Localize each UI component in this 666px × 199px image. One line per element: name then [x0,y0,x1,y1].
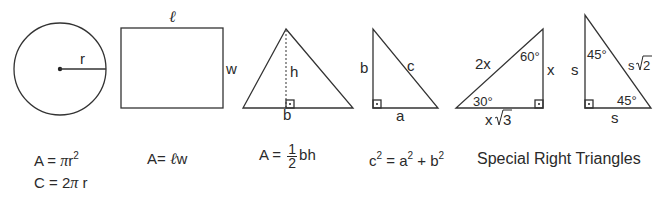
formula-rhs: bh [299,146,316,163]
formula-plus: + b [413,152,438,169]
rectangle-figure: ℓ w [121,8,237,108]
formula-eq: = a [382,152,407,169]
formula-var: r [78,174,87,191]
angle-45-bottom-label: 45° [617,93,637,108]
hypotenuse-2x-label: 2x [475,55,491,72]
triangle-figure: h b [243,29,353,123]
right-triangle-leg-b-label: b [360,59,368,76]
rectangle-length-label: ℓ [169,8,176,25]
triangle-height-label: h [290,63,298,80]
ell-symbol: ℓ [170,150,177,167]
angle-45-top-label: 45° [587,47,607,62]
geometry-figures: r ℓ w h b b c a 2x 60° x 30° x 3 [0,0,666,199]
hypotenuse-prefix: s [628,58,635,73]
rectangle-shape [121,28,223,108]
circle-area-formula: A = πr2 [34,150,79,170]
triangle-base-label: b [283,106,291,123]
triangle-30-60-90-shape [456,29,543,108]
right-angle-dot [376,103,378,105]
formula-lhs: A = [34,152,60,169]
right-triangle-shape [373,29,438,108]
right-angle-dot [289,103,291,105]
rectangle-area-formula: A= ℓw [147,150,187,168]
special-right-triangles-heading: Special Right Triangles [477,150,641,168]
formula-lhs: A= [147,150,170,167]
angle-30-label: 30° [473,94,493,109]
formula-exponent: 2 [73,150,79,161]
fraction-denominator: 2 [287,157,297,170]
pythagorean-formula: c2 = a2 + b2 [369,150,444,169]
right-triangle-leg-a-label: a [396,107,405,124]
circle-figure: r [14,23,106,115]
right-angle-dot [538,103,540,105]
rectangle-width-label: w [225,60,237,77]
right-triangle-figure: b c a [360,29,438,124]
short-leg-x-label: x [547,61,555,78]
formula-c: c [369,152,377,169]
hypotenuse-radicand: 2 [643,58,650,73]
triangle-30-60-90-figure: 2x 60° x 30° x 3 [456,29,555,128]
formula-lhs: A = [259,146,285,163]
formula-lhs: C = 2 [34,174,70,191]
circle-circumference-formula: C = 2π r [34,174,87,192]
long-leg-radicand: 3 [503,111,511,128]
leg-s-horizontal-label: s [611,109,619,126]
right-angle-dot [588,103,590,105]
formula-exponent: 2 [439,150,445,161]
leg-s-vertical-label: s [571,61,579,78]
long-leg-prefix: x [485,111,493,128]
right-triangle-hypotenuse-label: c [407,57,415,74]
triangle-area-formula: A = 12bh [259,143,316,170]
angle-60-label: 60° [520,49,540,64]
hypotenuse-s-root2-label: s 2 [628,56,652,73]
long-leg-x-root3-label: x 3 [485,110,512,128]
triangle-45-45-90-figure: 45° s s 2 45° s [571,15,652,126]
circle-radius-label: r [80,50,85,67]
formula-var: w [177,150,188,167]
fraction-one-half: 12 [287,143,297,170]
